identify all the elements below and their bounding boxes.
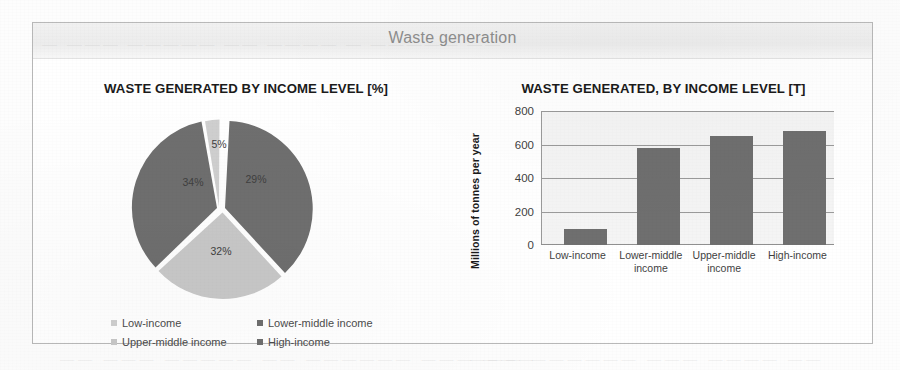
legend-item-high-income[interactable]: High-income: [257, 336, 407, 348]
x-label-line: Low-income: [541, 249, 614, 262]
pie-chart-title: WASTE GENERATED BY INCOME LEVEL [%]: [37, 81, 455, 96]
legend-label: High-income: [268, 336, 330, 348]
bar-chart: Millions of tonnes per year 0 200 400 60…: [457, 107, 870, 341]
slide-title: Waste generation: [33, 29, 872, 47]
x-label-lower-middle-income: Lower-middle income: [614, 249, 687, 274]
x-label-line: Lower-middle: [614, 249, 687, 262]
pie-chart: 34% 5% 29% 32%: [125, 111, 319, 305]
pie-label-high-income: 34%: [182, 176, 203, 188]
x-label-line: income: [614, 262, 687, 275]
legend-item-low-income[interactable]: Low-income: [111, 317, 257, 329]
y-tick-label: 400: [515, 172, 534, 184]
x-label-low-income: Low-income: [541, 249, 614, 274]
legend-swatch-icon: [257, 339, 263, 345]
x-label-line: income: [688, 262, 761, 275]
gridline-800: [541, 111, 834, 112]
legend-swatch-icon: [257, 320, 263, 326]
y-tick-label: 0: [528, 239, 534, 251]
x-label-upper-middle-income: Upper-middle income: [688, 249, 761, 274]
y-tick-label: 200: [515, 206, 534, 218]
legend-label: Low-income: [122, 317, 181, 329]
legend-item-lower-middle-income[interactable]: Lower-middle income: [257, 317, 407, 329]
ghost-text: —— ——— ————— —— —————— ——— ———: [60, 352, 537, 368]
bar-high-income[interactable]: [783, 131, 826, 245]
figure-frame: Waste generation WASTE GENERATED BY INCO…: [32, 22, 873, 344]
bar-chart-title: WASTE GENERATED, BY INCOME LEVEL [T]: [457, 81, 870, 96]
legend-swatch-icon: [111, 320, 117, 326]
pie-chart-panel: WASTE GENERATED BY INCOME LEVEL [%] 34% …: [37, 63, 455, 341]
bar-chart-panel: WASTE GENERATED, BY INCOME LEVEL [T] Mil…: [457, 63, 870, 341]
y-axis-title: Millions of tonnes per year: [469, 121, 481, 281]
x-label-line: High-income: [761, 249, 834, 262]
legend-label: Upper-middle income: [122, 336, 227, 348]
x-label-line: Upper-middle: [688, 249, 761, 262]
y-tick-label: 800: [515, 105, 534, 117]
bar-low-income[interactable]: [564, 229, 607, 245]
pie-legend: Low-income Lower-middle income Upper-mid…: [111, 313, 411, 351]
pie-label-low-income: 5%: [211, 138, 226, 150]
plot-area: 0 200 400 600 800: [541, 111, 834, 245]
legend-label: Lower-middle income: [268, 317, 373, 329]
pie-label-lower-middle-income: 29%: [245, 173, 266, 185]
ghost-text: ——— —————— ——— ———— ——: [470, 352, 824, 368]
bar-upper-middle-income[interactable]: [710, 136, 753, 245]
legend-swatch-icon: [111, 339, 117, 345]
x-label-high-income: High-income: [761, 249, 834, 274]
legend-item-upper-middle-income[interactable]: Upper-middle income: [111, 336, 257, 348]
pie-label-upper-middle-income: 32%: [210, 245, 231, 257]
pie-svg: 34% 5% 29% 32%: [125, 111, 319, 305]
x-axis-labels: Low-income Lower-middle income Upper-mid…: [541, 249, 834, 274]
y-tick-label: 600: [515, 139, 534, 151]
bar-lower-middle-income[interactable]: [637, 148, 680, 245]
